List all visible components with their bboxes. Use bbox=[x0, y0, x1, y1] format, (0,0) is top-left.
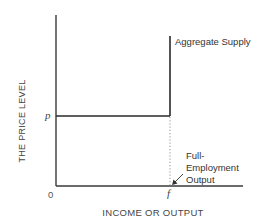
annotation-line-2: Employment bbox=[186, 162, 239, 174]
diagram-canvas bbox=[0, 0, 268, 224]
x-axis-label: INCOME OR OUTPUT bbox=[102, 207, 203, 218]
annotation-line-1: Full- bbox=[186, 150, 239, 162]
full-employment-annotation: Full- Employment Output bbox=[186, 150, 239, 186]
y-axis-label: THE PRICE LEVEL bbox=[17, 79, 27, 162]
aggregate-supply-label: Aggregate Supply bbox=[175, 37, 251, 47]
annotation-line-3: Output bbox=[186, 174, 239, 186]
full-employment-output-tick-label: f bbox=[167, 188, 170, 199]
origin-label: 0 bbox=[48, 190, 53, 200]
price-level-label: p bbox=[45, 110, 51, 121]
annotation-arrow-icon bbox=[172, 174, 183, 185]
